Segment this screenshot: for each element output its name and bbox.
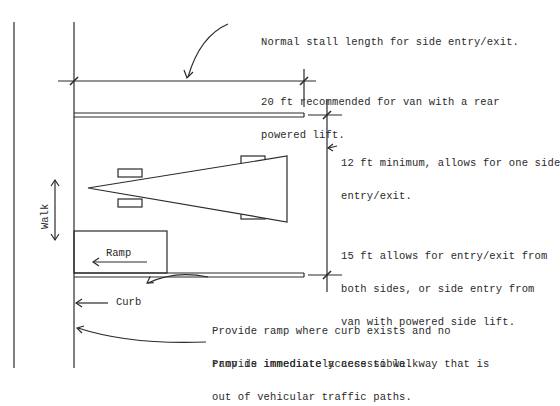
curb-label: Curb [116, 297, 141, 308]
stall-width-note-line1: 12 ft minimum, allows for one side [341, 158, 560, 169]
walk-label: Walk [40, 204, 51, 229]
stall-width-note-line4: both sides, or side entry from [341, 284, 560, 295]
vehicle-icon [88, 156, 287, 222]
walkway-note: Provide immediate access to walkway that… [212, 337, 489, 406]
stall-length-note-line1: Normal stall length for side entry/exit. [261, 37, 519, 48]
stall-length-note-line2: 20 ft recommended for van with a rear [261, 97, 519, 108]
stall-width-note-line3: 15 ft allows for entry/exit from [341, 251, 560, 262]
stall-width-note-line2: entry/exit. [341, 191, 560, 202]
stall-length-note: Normal stall length for side entry/exit.… [261, 15, 519, 152]
curb-arrow-icon [76, 299, 108, 307]
walkway-leader-arrow [77, 326, 206, 342]
ramp-label: Ramp [106, 248, 131, 259]
ramp-note-line1: Provide ramp where curb exists and no [212, 326, 451, 337]
walkway-note-line1: Provide immediate access to walkway that… [212, 359, 489, 370]
walk-arrow-icon [51, 180, 59, 240]
walkway-note-line2: out of vehicular traffic paths. [212, 392, 489, 403]
stall-length-leader-arrow [184, 24, 228, 78]
ramp-leader-arrow [145, 275, 208, 286]
ramp-arrow-icon [93, 258, 147, 266]
